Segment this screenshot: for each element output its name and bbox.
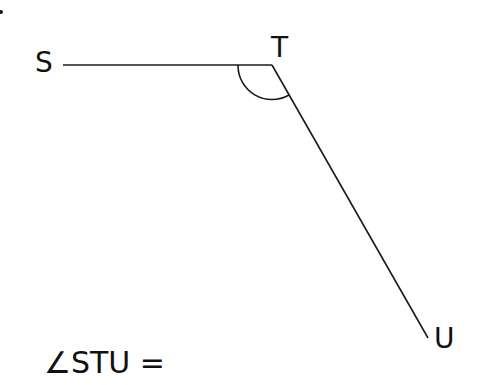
segment-tu	[272, 65, 428, 338]
corner-dot	[0, 10, 3, 14]
angle-question: ∠STU =	[44, 348, 165, 378]
angle-diagram-canvas: S T U ∠STU =	[0, 0, 504, 385]
angle-symbol-icon: ∠	[44, 345, 71, 380]
point-label-t: T	[271, 34, 288, 62]
point-label-s: S	[35, 49, 53, 77]
angle-figure	[0, 0, 504, 385]
angle-name: STU	[71, 345, 130, 380]
point-label-u: U	[434, 325, 455, 353]
equals-sign: =	[130, 345, 165, 380]
